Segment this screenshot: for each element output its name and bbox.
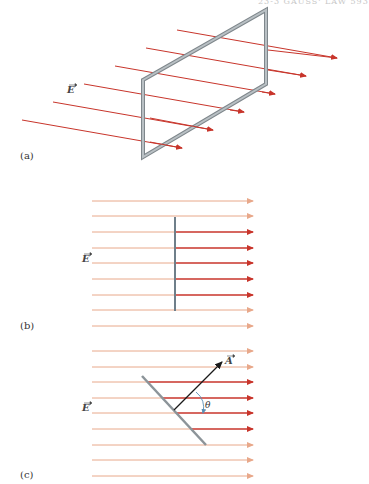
wire-loop-tilted (142, 376, 206, 445)
panel-label-a: (a) (20, 150, 34, 161)
angle-label: θ (205, 400, 210, 410)
field-label-c: E (82, 402, 90, 413)
panel-c (92, 351, 253, 476)
field-label-a: E (67, 84, 75, 95)
panel-b (92, 201, 253, 326)
panel-label-c: (c) (20, 469, 33, 480)
field-label-b: E (82, 253, 90, 264)
wire-loop (143, 10, 266, 157)
panel-label-b: (b) (20, 320, 34, 331)
area-label: A (225, 355, 233, 366)
angle-arc (196, 392, 204, 413)
area-vector (174, 362, 222, 410)
